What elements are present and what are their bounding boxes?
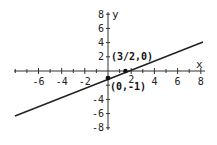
line-chart: -6 -4 -2 2 4 6 8 8 6 4 2 -4 -6 -8 y x (3… [0,0,217,145]
x-tick-label: 8 [198,76,204,87]
x-tick-label: -4 [56,76,68,87]
x-intercept-label: (3/2,0) [111,51,153,62]
point-x-intercept [123,69,127,73]
y-tick-label: -4 [92,94,104,105]
y-axis-label: y [112,8,119,21]
y-tick-label: 8 [98,9,104,20]
y-tick-label: 4 [98,37,104,48]
x-tick-label: 4 [151,76,157,87]
y-tick-label: 6 [98,23,104,34]
x-tick-label: -2 [79,76,91,87]
y-tick-label: -8 [92,122,104,133]
x-axis-label: x [196,58,203,71]
y-intercept-label: (0,-1) [110,81,146,92]
y-tick-label: 2 [98,51,104,62]
x-tick-label: -6 [32,76,44,87]
y-tick-label: -6 [92,108,104,119]
x-tick-label: 6 [175,76,181,87]
point-y-intercept [106,76,111,81]
